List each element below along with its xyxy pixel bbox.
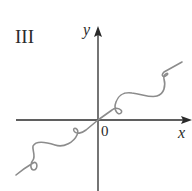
origin-label: 0 [101, 124, 109, 139]
x-axis-label: x [178, 125, 185, 141]
y-axis-label: y [83, 22, 90, 38]
curve [16, 62, 182, 175]
panel-label: III [15, 27, 34, 46]
figure: III y x 0 [0, 0, 192, 191]
